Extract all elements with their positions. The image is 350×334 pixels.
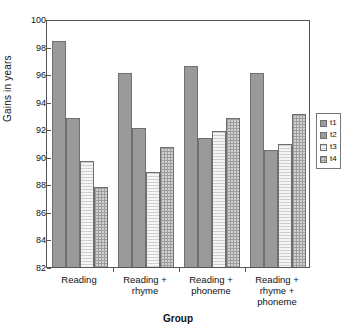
legend: t1t2t3t4 <box>316 113 341 169</box>
x-axis-title: Group <box>46 313 310 324</box>
legend-swatch-icon <box>320 132 327 139</box>
bar-t2-group-4 <box>264 150 278 267</box>
bar-t3-group-2 <box>146 172 160 267</box>
x-axis-tick <box>113 267 114 272</box>
bar-t1-group-2 <box>118 73 132 267</box>
legend-item-t2[interactable]: t2 <box>320 129 337 141</box>
bar-t2-group-2 <box>132 128 146 267</box>
legend-swatch-icon <box>320 156 327 163</box>
y-axis-tick-label: 82 <box>0 263 51 273</box>
legend-item-t1[interactable]: t1 <box>320 117 337 129</box>
category-label-line: Reading + <box>178 274 244 285</box>
bar-t4-group-4 <box>292 114 306 267</box>
bar-t4-group-2 <box>160 147 174 267</box>
y-axis-tick-label: 92 <box>0 125 51 135</box>
x-axis-tick <box>179 267 180 272</box>
legend-label: t3 <box>330 143 337 151</box>
y-axis-title: Gains in years <box>2 108 13 122</box>
y-axis-tick-label: 90 <box>0 153 51 163</box>
bar-chart: Gains in years 828486889092949698100 Rea… <box>0 0 350 334</box>
legend-swatch-icon <box>320 144 327 151</box>
bar-t1-group-4 <box>250 73 264 267</box>
bar-group <box>52 21 108 267</box>
category-label-line: phoneme <box>244 296 310 307</box>
x-axis-category-label: Reading <box>46 274 112 285</box>
legend-item-t3[interactable]: t3 <box>320 141 337 153</box>
category-label-line: rhyme <box>112 285 178 296</box>
legend-swatch-icon <box>320 120 327 127</box>
x-axis-category-label: Reading +phoneme <box>178 274 244 296</box>
bar-group <box>250 21 306 267</box>
category-label-line: Reading + <box>112 274 178 285</box>
bar-group <box>118 21 174 267</box>
bar-group <box>184 21 240 267</box>
bar-t1-group-1 <box>52 41 66 267</box>
y-axis-tick-label: 98 <box>0 43 51 53</box>
bar-t2-group-3 <box>198 138 212 268</box>
bars-layer <box>47 21 309 267</box>
y-axis-tick-label: 100 <box>0 15 51 25</box>
legend-label: t4 <box>330 155 337 163</box>
y-axis-tick-label: 96 <box>0 70 51 80</box>
legend-item-t4[interactable]: t4 <box>320 153 337 165</box>
plot-area <box>46 20 310 268</box>
category-label-line: Reading <box>46 274 112 285</box>
bar-t4-group-1 <box>94 187 108 267</box>
y-axis-tick-label: 94 <box>0 98 51 108</box>
x-axis-category-label: Reading +rhyme <box>112 274 178 296</box>
bar-t3-group-1 <box>80 161 94 267</box>
x-axis-category-label: Reading +rhyme +phoneme <box>244 274 310 307</box>
x-axis-tick <box>245 267 246 272</box>
category-label-line: Reading + <box>244 274 310 285</box>
legend-label: t2 <box>330 131 337 139</box>
bar-t3-group-3 <box>212 131 226 267</box>
y-axis-tick-label: 86 <box>0 208 51 218</box>
bar-t1-group-3 <box>184 66 198 267</box>
bar-t2-group-1 <box>66 118 80 267</box>
y-axis-tick-label: 88 <box>0 180 51 190</box>
legend-label: t1 <box>330 119 337 127</box>
category-label-line: rhyme + <box>244 285 310 296</box>
bar-t4-group-3 <box>226 118 240 267</box>
y-axis-tick-label: 84 <box>0 235 51 245</box>
bar-t3-group-4 <box>278 144 292 267</box>
category-label-line: phoneme <box>178 285 244 296</box>
